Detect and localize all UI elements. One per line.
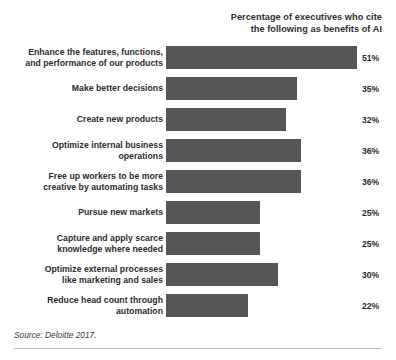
benefits-of-ai-bar-chart: Percentage of executives who citethe fol… [0, 0, 396, 360]
chart-plot-area: Enhance the features, functions,and perf… [0, 46, 396, 325]
bar-row: Free up workers to be morecreative by au… [0, 170, 396, 193]
bar-row: Enhance the features, functions,and perf… [0, 46, 396, 69]
bar-row: Pursue new markets25% [0, 201, 396, 224]
bar-category-label: Make better decisions [0, 83, 163, 94]
bar-fill [166, 232, 260, 255]
bar-category-label-line: Optimize external processes [0, 263, 163, 274]
bar-value-label: 35% [362, 84, 379, 94]
bar-track: 51% [166, 46, 396, 69]
chart-title: Percentage of executives who citethe fol… [152, 11, 382, 36]
bar-value-label: 36% [362, 177, 379, 187]
bar-fill [166, 170, 301, 193]
bar-row: Optimize external processeslike marketin… [0, 263, 396, 286]
bar-category-label: Capture and apply scarceknowledge where … [0, 232, 163, 255]
bar-value-label: 25% [362, 239, 379, 249]
bar-value-label: 51% [362, 53, 379, 63]
bar-value-label: 36% [362, 146, 379, 156]
bar-fill [166, 139, 301, 162]
bar-track: 36% [166, 170, 396, 193]
bar-category-label-line: creative by automating tasks [0, 182, 163, 193]
bar-fill [166, 77, 297, 100]
bar-category-label-line: Optimize internal business [0, 139, 163, 150]
bar-category-label-line: automation [0, 306, 163, 317]
bar-category-label-line: Make better decisions [0, 83, 163, 94]
bar-row: Reduce head count throughautomation22% [0, 294, 396, 317]
bar-category-label-line: Pursue new markets [0, 207, 163, 218]
bar-category-label-line: like marketing and sales [0, 275, 163, 286]
chart-title-line-0: Percentage of executives who cite [152, 11, 382, 23]
bar-category-label-line: Create new products [0, 114, 163, 125]
bar-category-label-line: Capture and apply scarce [0, 232, 163, 243]
bar-value-label: 22% [362, 301, 379, 311]
bar-track: 36% [166, 139, 396, 162]
bar-value-label: 30% [362, 270, 379, 280]
bar-fill [166, 108, 286, 131]
bar-category-label: Optimize external processeslike marketin… [0, 263, 163, 286]
bottom-divider [14, 348, 382, 349]
chart-title-line-1: the following as benefits of AI [152, 23, 382, 35]
bar-category-label: Reduce head count throughautomation [0, 294, 163, 317]
bar-fill [166, 201, 260, 224]
bar-track: 35% [166, 77, 396, 100]
bar-fill [166, 263, 278, 286]
bar-category-label-line: Reduce head count through [0, 294, 163, 305]
bar-row: Create new products32% [0, 108, 396, 131]
bar-category-label: Pursue new markets [0, 207, 163, 218]
source-note: Source: Deloitte 2017. [14, 330, 97, 340]
bar-category-label-line: and performance of our products [0, 58, 163, 69]
bar-track: 22% [166, 294, 396, 317]
bar-category-label: Optimize internal businessoperations [0, 139, 163, 162]
bar-track: 32% [166, 108, 396, 131]
bar-category-label: Create new products [0, 114, 163, 125]
bar-category-label-line: knowledge where needed [0, 244, 163, 255]
bar-category-label: Free up workers to be morecreative by au… [0, 170, 163, 193]
bar-row: Optimize internal businessoperations36% [0, 139, 396, 162]
bar-track: 30% [166, 263, 396, 286]
bar-track: 25% [166, 232, 396, 255]
bar-category-label-line: Enhance the features, functions, [0, 46, 163, 57]
bar-track: 25% [166, 201, 396, 224]
bar-row: Make better decisions35% [0, 77, 396, 100]
bar-category-label: Enhance the features, functions,and perf… [0, 46, 163, 69]
bar-category-label-line: operations [0, 151, 163, 162]
bar-row: Capture and apply scarceknowledge where … [0, 232, 396, 255]
bar-value-label: 32% [362, 115, 379, 125]
bar-fill [166, 46, 357, 69]
bar-fill [166, 294, 248, 317]
bar-category-label-line: Free up workers to be more [0, 170, 163, 181]
bar-value-label: 25% [362, 208, 379, 218]
